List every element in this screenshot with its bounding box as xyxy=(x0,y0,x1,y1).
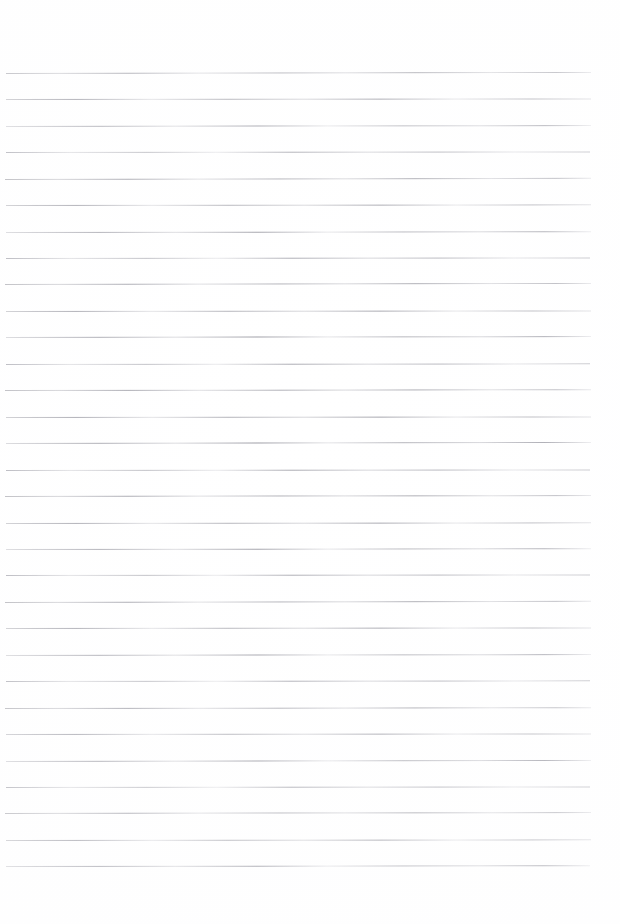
ruled-line xyxy=(5,601,591,603)
ruled-line-ink xyxy=(6,654,591,656)
ruled-line xyxy=(6,733,591,735)
ruled-line xyxy=(6,72,591,74)
ruled-line-ink xyxy=(5,707,591,709)
ruled-line xyxy=(6,204,591,206)
ruled-line-ink xyxy=(6,733,591,735)
ruled-line xyxy=(6,231,591,233)
ruled-line-ink xyxy=(6,336,591,338)
ruled-line xyxy=(6,839,591,841)
ruled-line-ink xyxy=(5,389,591,391)
ruled-line xyxy=(6,152,590,154)
ruled-line-ink xyxy=(6,416,591,418)
ruled-line-ink xyxy=(6,99,591,101)
ruled-line xyxy=(5,495,591,497)
ruled-line xyxy=(5,177,591,179)
ruled-line-ink xyxy=(6,759,591,761)
ruled-line-ink xyxy=(5,495,591,497)
ruled-line-ink xyxy=(5,283,591,285)
ruled-line-ink xyxy=(6,548,591,550)
ruled-line xyxy=(5,707,591,709)
ruled-line xyxy=(6,442,591,444)
ruled-line-ink xyxy=(5,601,591,603)
ruled-line-ink xyxy=(6,786,590,788)
ruled-line-ink xyxy=(6,442,591,444)
ruled-line xyxy=(6,759,591,761)
ruled-line xyxy=(6,654,591,656)
ruled-line-ink xyxy=(6,865,590,867)
ruled-line xyxy=(6,469,590,471)
ruled-line-ink xyxy=(6,204,591,206)
ruled-line xyxy=(6,363,590,365)
ruled-line-ink xyxy=(6,522,591,524)
ruled-line xyxy=(6,257,590,259)
ruled-line xyxy=(6,865,590,867)
scanned-page xyxy=(0,0,620,924)
ruled-line-ink xyxy=(6,680,590,682)
ruled-line-ink xyxy=(5,177,591,179)
ruled-line-ink xyxy=(6,575,590,577)
ruled-line-ink xyxy=(6,363,590,365)
ruled-line-ink xyxy=(6,839,591,841)
ruled-line xyxy=(6,125,591,127)
ruled-line xyxy=(6,786,590,788)
ruled-line-ink xyxy=(6,72,591,74)
ruled-line xyxy=(5,283,591,285)
ruled-line-ink xyxy=(6,257,590,259)
ruled-line xyxy=(6,310,591,312)
ruled-line-ink xyxy=(6,152,590,154)
ruled-line xyxy=(6,336,591,338)
ruled-line xyxy=(6,575,590,577)
ruled-line xyxy=(6,522,591,524)
ruled-line-ink xyxy=(6,231,591,233)
ruled-line-ink xyxy=(6,469,590,471)
ruled-line xyxy=(6,416,591,418)
ruled-line xyxy=(6,99,591,101)
ruled-line-ink xyxy=(6,310,591,312)
ruled-line xyxy=(6,628,591,630)
ruled-line xyxy=(6,548,591,550)
ruled-line-ink xyxy=(6,628,591,630)
ruled-line xyxy=(5,812,591,814)
ruled-line xyxy=(6,680,590,682)
ruled-line xyxy=(5,389,591,391)
ruled-line-ink xyxy=(5,812,591,814)
ruled-lines-group xyxy=(0,0,620,924)
ruled-line-ink xyxy=(6,125,591,127)
